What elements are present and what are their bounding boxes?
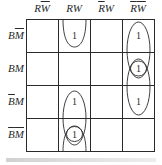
cell-r2-c3: 1	[136, 96, 141, 107]
karnaugh-map-grid: 1 1 1 1 1 1	[0, 0, 162, 165]
cell-r0-c3: 1	[136, 30, 141, 41]
cell-r2-c1: 1	[72, 96, 77, 107]
cell-r3-c1: 1	[72, 129, 77, 140]
cropped-caption-fragment	[6, 158, 156, 162]
cell-r1-c3: 1	[136, 63, 141, 74]
cell-r0-c1: 1	[72, 30, 77, 41]
